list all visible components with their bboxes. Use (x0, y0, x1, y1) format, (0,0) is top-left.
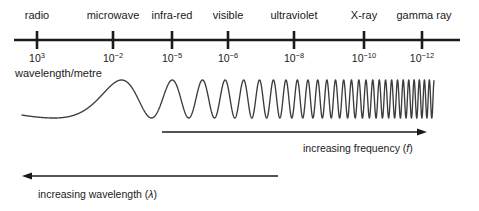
tick-mantissa: 10 (284, 52, 296, 64)
tick-exponent: 3 (41, 51, 45, 60)
increasing-frequency-caption: increasing frequency (f) (303, 142, 413, 155)
tick-exponent: −8 (296, 51, 305, 60)
caption-suffix: ) (153, 188, 157, 200)
band-label-radio: radio (25, 9, 49, 22)
tick-label-visible: 10−6 (218, 52, 238, 64)
tick-label-gamma-ray: 10−12 (410, 52, 434, 64)
band-label-ultraviolet: ultraviolet (270, 9, 317, 22)
tick-exponent: −12 (421, 51, 434, 60)
tick-mantissa: 10 (103, 52, 115, 64)
tick-exponent: −2 (115, 51, 124, 60)
band-label-gamma-ray: gamma ray (396, 9, 451, 22)
electromagnetic-wave-curve (22, 80, 434, 118)
caption-prefix: increasing frequency ( (303, 142, 406, 154)
increasing-wavelength-caption: increasing wavelength (λ) (38, 188, 157, 201)
tick-label-ultraviolet: 10−8 (284, 52, 304, 64)
band-label-visible: visible (213, 9, 244, 22)
band-label-infra-red: infra-red (152, 9, 193, 22)
tick-label-radio: 103 (29, 52, 45, 64)
band-label-microwave: microwave (87, 9, 140, 22)
tick-mantissa: 10 (162, 52, 174, 64)
increasing-frequency-arrow (162, 128, 427, 135)
tick-label-infra-red: 10−5 (162, 52, 182, 64)
tick-exponent: −10 (363, 51, 376, 60)
band-label-x-ray: X-ray (351, 9, 377, 22)
tick-exponent: −5 (174, 51, 183, 60)
tick-mantissa: 10 (352, 52, 364, 64)
axis-caption-wavelength: wavelength/metre (15, 67, 102, 80)
diagram-graphics (0, 0, 479, 211)
tick-exponent: −6 (230, 51, 239, 60)
caption-prefix: increasing wavelength ( (38, 188, 148, 200)
tick-label-x-ray: 10−10 (352, 52, 376, 64)
tick-mantissa: 10 (410, 52, 422, 64)
caption-suffix: ) (409, 142, 413, 154)
increasing-wavelength-arrow (22, 172, 278, 179)
tick-mantissa: 10 (218, 52, 230, 64)
em-spectrum-diagram: radio microwave infra-red visible ultrav… (0, 0, 479, 211)
tick-label-microwave: 10−2 (103, 52, 123, 64)
tick-mantissa: 10 (29, 52, 41, 64)
